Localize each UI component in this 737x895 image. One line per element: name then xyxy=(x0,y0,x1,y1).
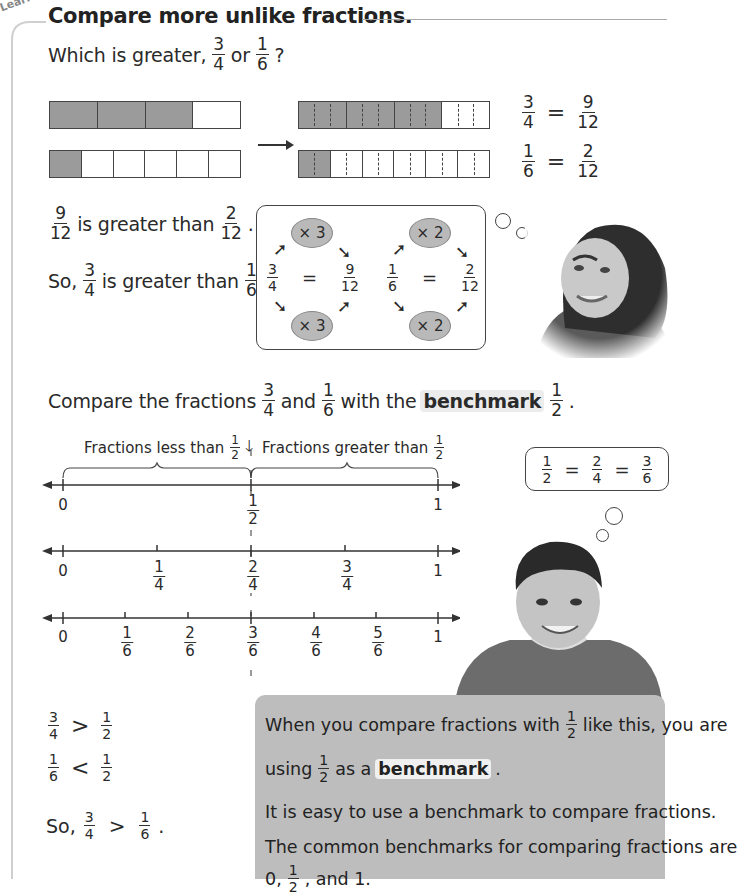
benchmark-intro: Compare the fractions 34 and 16 with the… xyxy=(48,382,575,419)
fraction: 16 xyxy=(256,36,269,73)
tick-label: 26 xyxy=(184,626,196,659)
question-suffix: ? xyxy=(275,44,285,66)
arrow-up-right-icon: ➚ xyxy=(273,241,287,258)
bar-two-twelfths xyxy=(298,150,490,178)
equation-1-6: 16 = 212 xyxy=(520,143,601,180)
question-joiner: or xyxy=(231,44,250,66)
tick-label: 14 xyxy=(153,560,165,593)
tick-label: 16 xyxy=(121,626,133,659)
thought-bubble-icon xyxy=(495,213,511,229)
question-prefix: Which is greater, xyxy=(48,44,206,66)
multiply-oval: × 3 xyxy=(291,218,333,248)
bar-nine-twelfths xyxy=(298,101,490,129)
note-line-2: using 12 as a benchmark. xyxy=(265,753,501,784)
tick-label: 12 xyxy=(247,494,259,527)
arrow-up-right-icon: ➚ xyxy=(455,298,469,315)
number-lines: Fractions less than 12 🡓 Fractions great… xyxy=(0,430,460,690)
arrow-right-icon xyxy=(258,144,288,146)
comparison-line-1: 912 is greater than 212. xyxy=(48,205,253,242)
number-line-graphics xyxy=(0,430,460,690)
equivalent-fractions-box: × 3 × 3 × 2 × 2 ➚ ➘ ➘ ➚ ➚ ➘ ➘ ➚ 34 = 912… xyxy=(256,205,486,350)
girl-photo xyxy=(525,208,673,358)
boy-smiling-icon xyxy=(450,530,665,700)
tick-label: 1 xyxy=(433,628,443,646)
arrow-down-right-icon: ➘ xyxy=(337,244,351,261)
tick-label: 1 xyxy=(433,562,443,580)
tick-label: 34 xyxy=(341,560,353,593)
thought-bubble-icon xyxy=(605,507,623,525)
boy-photo xyxy=(450,530,665,700)
note-line-3: It is easy to use a benchmark to compare… xyxy=(265,802,716,822)
comparison-line-2: So, 34 is greater than 16. xyxy=(48,262,269,299)
title-rule xyxy=(362,19,667,20)
page-title: Compare more unlike fractions. xyxy=(48,4,413,28)
equation-3-4: 34 = 912 xyxy=(520,94,601,131)
tick-label: 36 xyxy=(247,626,259,659)
tick-label: 46 xyxy=(310,626,322,659)
arrow-down-right-icon: ➘ xyxy=(392,298,406,315)
tick-label: 56 xyxy=(372,626,384,659)
tick-label: 0 xyxy=(58,496,68,514)
inequality-1: 34 > 12 xyxy=(46,710,114,741)
note-line-1: When you compare fractions with 12 like … xyxy=(265,709,727,740)
note-line-4: The common benchmarks for comparing frac… xyxy=(265,837,737,857)
note-line-5: 0, 12, and 1. xyxy=(265,863,371,894)
tick-label: 0 xyxy=(58,562,68,580)
arrow-down-right-icon: ➘ xyxy=(273,298,287,315)
benchmark-note-panel: When you compare fractions with 12 like … xyxy=(255,695,665,879)
tick-label: 24 xyxy=(247,560,259,593)
inequality-conclusion: So, 34 > 16. xyxy=(46,810,164,841)
multiply-oval: × 3 xyxy=(291,311,333,341)
bar-three-fourths xyxy=(49,101,241,129)
multiply-oval: × 2 xyxy=(409,218,451,248)
bar-one-sixth xyxy=(49,150,241,178)
girl-thinking-icon xyxy=(525,208,673,358)
question: Which is greater, 34 or 16 ? xyxy=(48,36,284,73)
tick-label: 1 xyxy=(433,496,443,514)
arrow-down-right-icon: ➘ xyxy=(455,244,469,261)
arrow-up-right-icon: ➚ xyxy=(392,241,406,258)
arrow-up-right-icon: ➚ xyxy=(337,298,351,315)
benchmark-keyword: benchmark xyxy=(375,759,491,779)
equivalent-halves-box: 12 = 24 = 36 xyxy=(525,447,669,491)
fraction: 34 xyxy=(212,36,225,73)
inequality-2: 16 < 12 xyxy=(46,752,114,783)
multiply-oval: × 2 xyxy=(409,311,451,341)
benchmark-keyword: benchmark xyxy=(420,390,544,412)
tick-label: 0 xyxy=(58,628,68,646)
